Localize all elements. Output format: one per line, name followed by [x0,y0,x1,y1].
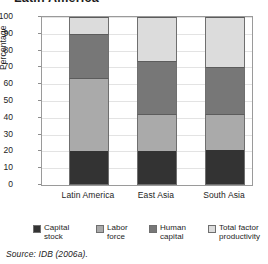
bar-segment [205,114,245,149]
bar-east-asia[interactable] [137,17,177,185]
bar-segment [205,67,245,114]
y-axis-tick-60: 60 [0,79,13,88]
bar-segment [137,61,177,115]
legend-label: Capital stock [44,224,90,241]
bar-segment [137,17,177,61]
source-note: Source: IDB (2006a). [6,249,88,259]
legend-label: Total factor productivity [219,224,268,241]
legend-swatch-icon [208,225,216,233]
y-axis-tick-50: 50 [0,96,13,105]
bar-latin-america[interactable] [69,17,109,185]
legend-label: Labor force [107,224,143,241]
y-axis-tick-90: 90 [0,29,13,38]
y-axis-tick-0: 0 [0,180,13,189]
plot-area [41,16,253,186]
legend-item-total-factor-productivity[interactable]: Total factor productivity [208,224,268,241]
y-axis-tick-40: 40 [0,113,13,122]
x-axis-label-south-asia: South Asia [178,190,268,200]
y-axis-tick-20: 20 [0,146,13,155]
chart-title: Latin America [14,0,99,5]
legend-item-capital-stock[interactable]: Capital stock [33,224,90,241]
legend-swatch-icon [33,225,41,233]
bar-segment [205,17,245,67]
y-axis-tick-70: 70 [0,62,13,71]
bar-segment [69,34,109,78]
y-axis-tick-30: 30 [0,130,13,139]
y-axis-tick-100: 100 [0,12,13,21]
legend-item-human-capital[interactable]: Human capital [149,224,202,241]
y-axis-tick-10: 10 [0,163,13,172]
y-axis-tick-80: 80 [0,46,13,55]
legend-swatch-icon [96,225,104,233]
bar-segment [205,150,245,185]
bar-segment [69,17,109,34]
bar-south-asia[interactable] [205,17,245,185]
legend-swatch-icon [149,225,157,233]
bar-segment [137,151,177,185]
legend-label: Human capital [160,224,202,241]
bar-segment [137,114,177,151]
bar-segment [69,78,109,152]
bar-segment [69,151,109,185]
legend-item-labor-force[interactable]: Labor force [96,224,143,241]
legend: Capital stockLabor forceHuman capitalTot… [33,224,265,241]
